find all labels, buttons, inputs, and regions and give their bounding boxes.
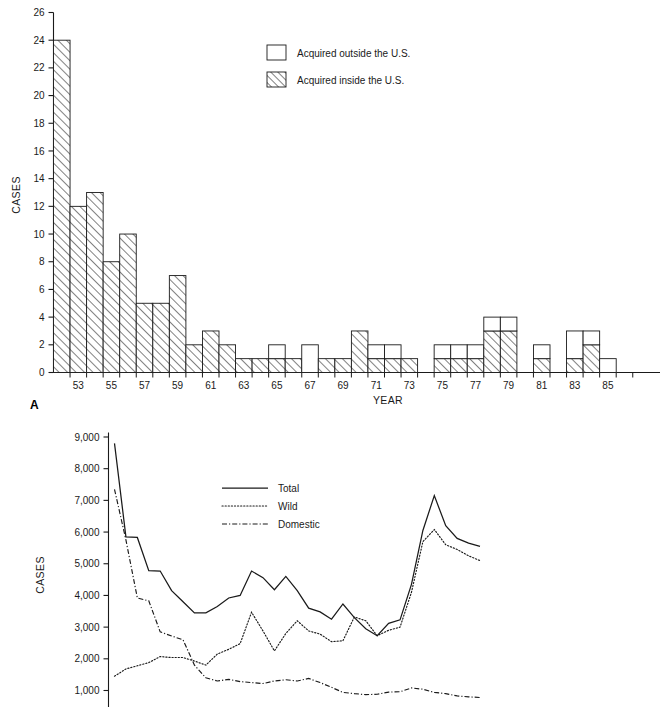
bar-segment-inside <box>252 359 269 373</box>
y-tick-label: 8 <box>39 256 45 267</box>
y-tick-label: 18 <box>33 118 45 129</box>
y-tick-label: 8,000 <box>74 463 99 474</box>
bar-segment-inside <box>500 331 517 373</box>
panel-a-y-axis: 02468101214161820222426 CASES <box>10 7 54 378</box>
x-tick-label: 83 <box>569 380 581 391</box>
x-tick-label: 73 <box>404 380 416 391</box>
bar-segment-outside <box>467 345 484 359</box>
bar-segment-inside <box>153 303 170 372</box>
y-tick-label: 10 <box>33 229 45 240</box>
x-tick-label: 71 <box>371 380 383 391</box>
panel-a-x-ticks <box>70 373 633 378</box>
x-tick-label: 57 <box>139 380 151 391</box>
bar-segment-inside <box>120 234 137 372</box>
panel-b-svg: 1,0002,0003,0004,0005,0006,0007,0008,000… <box>0 420 669 707</box>
bar-segment-inside <box>285 359 302 373</box>
panel-a-bar-chart: 02468101214161820222426 CASES 5355575961… <box>0 0 669 420</box>
x-tick-label: 79 <box>503 380 515 391</box>
y-tick-label: 4 <box>39 312 45 323</box>
panel-a-y-axis-title: CASES <box>10 176 22 214</box>
legend-label-domestic: Domestic <box>278 519 320 530</box>
bar-segment-inside <box>202 331 219 373</box>
x-tick-label: 85 <box>602 380 614 391</box>
bar-segment-inside <box>54 40 71 372</box>
bar-segment-outside <box>385 345 402 359</box>
bar-segment-inside <box>567 359 584 373</box>
y-tick-label: 1,000 <box>74 685 99 696</box>
legend-label-inside: Acquired inside the U.S. <box>297 75 404 86</box>
y-tick-label: 12 <box>33 201 45 212</box>
y-tick-label: 14 <box>33 173 45 184</box>
panel-a-label: A <box>30 395 39 413</box>
bar-segment-outside <box>533 345 550 359</box>
bar-segment-outside <box>583 331 600 345</box>
legend-swatch-outside <box>267 45 286 60</box>
legend-label-total: Total <box>278 483 299 494</box>
x-tick-label: 63 <box>238 380 250 391</box>
panel-b-y-axis-title: CASES <box>34 556 46 594</box>
panel-b-series-lines <box>115 443 481 697</box>
x-tick-label: 55 <box>106 380 118 391</box>
y-tick-label: 16 <box>33 146 45 157</box>
panel-a-y-ticks <box>49 13 54 373</box>
bar-segment-inside <box>583 345 600 373</box>
panel-a-legend: Acquired outside the U.S. Acquired insid… <box>267 45 410 87</box>
y-tick-label: 6 <box>39 284 45 295</box>
panel-b-y-tick-labels: 1,0002,0003,0004,0005,0006,0007,0008,000… <box>74 432 99 696</box>
y-tick-label: 9,000 <box>74 432 99 443</box>
x-tick-label: 81 <box>536 380 548 391</box>
bar-segment-inside <box>219 345 236 373</box>
bar-segment-inside <box>335 359 352 373</box>
panel-b-y-axis: 1,0002,0003,0004,0005,0006,0007,0008,000… <box>34 432 109 707</box>
y-tick-label: 0 <box>39 367 45 378</box>
bar-segment-outside <box>500 317 517 331</box>
bar-segment-inside <box>368 359 385 373</box>
x-tick-label: 65 <box>271 380 283 391</box>
bar-segment-inside <box>236 359 253 373</box>
bar-segment-inside <box>269 359 286 373</box>
y-tick-label: 3,000 <box>74 622 99 633</box>
bar-segment-inside <box>136 303 153 372</box>
bar-segment-inside <box>186 345 203 373</box>
y-tick-label: 4,000 <box>74 590 99 601</box>
bar-segment-inside <box>70 206 87 372</box>
panel-a-y-tick-labels: 02468101214161820222426 <box>33 7 45 378</box>
x-tick-label: 61 <box>205 380 217 391</box>
bar-segment-outside <box>269 345 286 359</box>
x-tick-label: 77 <box>470 380 482 391</box>
y-tick-label: 2,000 <box>74 653 99 664</box>
bar-segment-inside <box>351 331 368 373</box>
bar-segment-inside <box>533 359 550 373</box>
bar-segment-inside <box>103 262 120 373</box>
panel-a-svg: 02468101214161820222426 CASES 5355575961… <box>0 0 669 420</box>
bar-segment-inside <box>401 359 418 373</box>
series-line-wild <box>115 530 481 677</box>
bar-segment-inside <box>87 193 104 373</box>
bar-segment-outside <box>368 345 385 359</box>
panel-a-x-tick-labels: 5355575961636567697173757779818385 <box>73 380 614 391</box>
bar-segment-outside <box>567 331 584 359</box>
bar-segment-outside <box>484 317 501 331</box>
bar-segment-inside <box>451 359 468 373</box>
y-tick-label: 2 <box>39 339 45 350</box>
panel-a-bars <box>54 40 617 372</box>
x-tick-label: 59 <box>172 380 184 391</box>
panel-b-line-chart: 1,0002,0003,0004,0005,0006,0007,0008,000… <box>0 420 669 707</box>
y-tick-label: 20 <box>33 90 45 101</box>
bar-segment-inside <box>318 359 335 373</box>
bar-segment-inside <box>385 359 402 373</box>
x-tick-label: 69 <box>338 380 350 391</box>
x-tick-label: 75 <box>437 380 449 391</box>
bar-segment-outside <box>302 345 319 373</box>
bar-segment-outside <box>451 345 468 359</box>
bar-segment-inside <box>467 359 484 373</box>
bar-segment-outside <box>434 345 451 359</box>
panel-b-y-ticks <box>104 437 109 690</box>
y-tick-label: 26 <box>33 7 45 18</box>
panel-a-x-axis-title: YEAR <box>373 394 403 406</box>
y-tick-label: 5,000 <box>74 558 99 569</box>
panel-b-legend: Total Wild Domestic <box>222 483 320 530</box>
bar-segment-inside <box>169 276 186 373</box>
x-tick-label: 53 <box>73 380 85 391</box>
bar-segment-inside <box>484 331 501 373</box>
